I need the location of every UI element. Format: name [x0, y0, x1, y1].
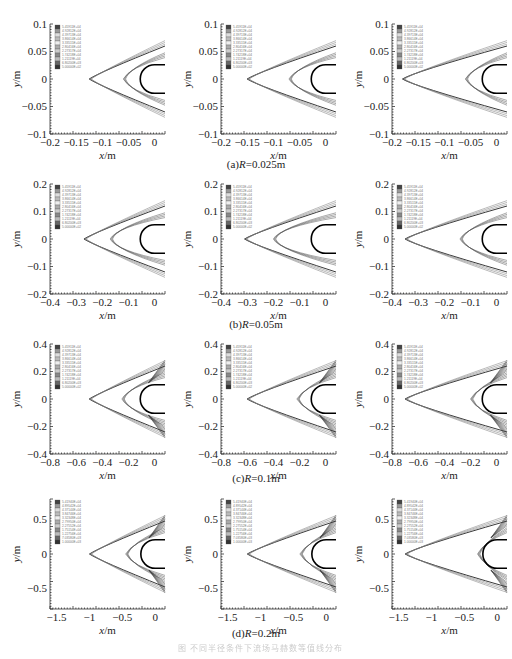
y-tick-label: 0.2: [375, 365, 389, 377]
y-axis-label: y/m: [352, 230, 364, 248]
x-tick-label: 0: [494, 136, 500, 148]
y-tick-label: 0.1: [33, 18, 47, 30]
y-tick-label: −0.05: [364, 100, 390, 112]
blunt-body: [140, 65, 165, 94]
y-tick-label: 0.2: [204, 178, 218, 190]
x-tick-label: −0.15: [405, 136, 431, 148]
svg-text:5.00000E+02: 5.00000E+02: [62, 225, 81, 229]
y-tick-label: 0.05: [370, 45, 390, 57]
blunt-body: [482, 385, 507, 414]
x-tick-label: −1.5: [47, 611, 67, 623]
contour-legend: 5.45911E+044.92812E+044.39713E+043.86614…: [55, 345, 81, 389]
x-tick-label: −0.3: [237, 296, 257, 308]
y-tick-label: −0.05: [22, 100, 48, 112]
x-tick-label: −0.6: [408, 456, 428, 468]
svg-text:1.00000E+03: 1.00000E+03: [404, 540, 423, 544]
y-tick-label: −0.2: [369, 420, 389, 432]
y-axis-label: y/m: [10, 390, 22, 408]
y-tick-label: 0: [384, 393, 390, 405]
y-tick-label: −0.05: [193, 100, 219, 112]
y-axis-label: y/m: [10, 70, 22, 88]
x-tick-label: −1: [426, 611, 438, 623]
x-tick-label: −0.6: [66, 456, 86, 468]
x-tick-label: −0.4: [211, 296, 231, 308]
figure-caption: 图 不同半径条件下流场马赫数等值线分布: [120, 642, 400, 652]
x-tick-label: 0: [494, 611, 500, 623]
x-tick-label: −1: [255, 611, 267, 623]
contour-legend: 5.45911E+044.92812E+044.39713E+043.86614…: [397, 185, 423, 229]
blunt-body: [140, 225, 165, 254]
x-tick-label: −1: [84, 611, 96, 623]
caption-row-d: (d)R=0.2m: [171, 627, 341, 639]
contour-plot-b1: 0.20.10−0.1−0.2−0.4−0.3−0.2−0.10x/my/m5.…: [0, 178, 170, 328]
blunt-body: [312, 540, 336, 569]
contour-plot-a1: 0.10.050−0.05−0.1−0.2−0.15−0.1−0.050x/my…: [0, 18, 170, 168]
y-axis-label: y/m: [181, 390, 193, 408]
contour-legend: 5.45911E+044.92812E+044.39713E+043.86614…: [226, 25, 252, 69]
x-tick-label: −0.4: [434, 456, 454, 468]
x-tick-label: 0: [323, 296, 329, 308]
y-tick-label: 0.05: [199, 45, 219, 57]
y-tick-label: 0.1: [204, 205, 218, 217]
x-axis-label: x/m: [440, 309, 458, 321]
x-tick-label: −0.8: [40, 456, 60, 468]
blunt-body: [311, 225, 336, 254]
y-tick-label: 0.1: [375, 205, 389, 217]
x-tick-label: −0.8: [211, 456, 231, 468]
x-axis-label: x/m: [440, 624, 458, 636]
y-tick-label: −0.5: [369, 582, 389, 594]
y-axis-label: y/m: [181, 230, 193, 248]
x-tick-label: −0.2: [118, 456, 138, 468]
x-tick-label: −0.5: [454, 611, 474, 623]
blunt-body: [311, 385, 336, 414]
x-tick-label: −0.2: [263, 296, 283, 308]
contour-legend: 5.41940E+044.89542E+044.37144E+043.84746…: [55, 500, 81, 544]
x-tick-label: −1.5: [218, 611, 238, 623]
x-tick-label: −0.05: [287, 136, 313, 148]
svg-text:5.00000E+02: 5.00000E+02: [62, 385, 81, 389]
y-tick-label: −0.5: [198, 582, 218, 594]
y-axis-label: y/m: [352, 545, 364, 563]
y-tick-label: 0.5: [33, 513, 47, 525]
x-tick-label: −0.4: [92, 456, 112, 468]
y-tick-label: 0.1: [375, 18, 389, 30]
y-tick-label: 0: [42, 73, 48, 85]
y-tick-label: 0: [384, 233, 390, 245]
contour-lines: [84, 201, 165, 278]
y-axis-label: y/m: [10, 230, 22, 248]
x-tick-label: −0.1: [92, 136, 112, 148]
contour-plot-a3: 0.10.050−0.05−0.1−0.2−0.15−0.1−0.050x/my…: [342, 18, 512, 168]
contour-plot-c3: 0.40.20−0.2−0.4−0.8−0.6−0.4−0.20x/my/m5.…: [342, 338, 512, 488]
y-tick-label: 0: [213, 548, 219, 560]
x-tick-label: −0.05: [458, 136, 484, 148]
x-tick-label: −0.4: [40, 296, 60, 308]
contour-legend: 5.45911E+044.92812E+044.39713E+043.86614…: [397, 345, 423, 389]
x-tick-label: −0.2: [40, 136, 60, 148]
x-tick-label: 0: [152, 296, 158, 308]
y-tick-label: −0.1: [369, 260, 389, 272]
x-axis-label: x/m: [98, 624, 116, 636]
y-tick-label: 0.05: [28, 45, 48, 57]
x-tick-label: −0.1: [434, 136, 454, 148]
svg-text:5.00000E+02: 5.00000E+02: [404, 385, 423, 389]
y-tick-label: 0.5: [204, 513, 218, 525]
y-tick-label: 0.4: [204, 338, 218, 350]
contour-plot-c1: 0.40.20−0.2−0.4−0.8−0.6−0.4−0.20x/my/m5.…: [0, 338, 170, 488]
y-tick-label: 0: [213, 73, 219, 85]
y-tick-label: −0.2: [27, 420, 47, 432]
x-tick-label: −0.6: [237, 456, 257, 468]
x-axis-label: x/m: [98, 309, 116, 321]
x-tick-label: −0.1: [289, 296, 309, 308]
contour-legend: 5.41940E+044.89542E+044.37144E+043.84746…: [397, 500, 423, 544]
x-axis-label: x/m: [98, 149, 116, 161]
x-tick-label: −0.05: [116, 136, 142, 148]
contour-lines: [247, 41, 336, 118]
x-tick-label: −0.2: [289, 456, 309, 468]
contour-plot-b2: 0.20.10−0.1−0.2−0.4−0.3−0.2−0.10x/my/m5.…: [171, 178, 341, 328]
blunt-body: [483, 540, 507, 569]
blunt-body: [482, 65, 507, 94]
contour-plot-c2: 0.40.20−0.2−0.4−0.8−0.6−0.4−0.20x/my/m5.…: [171, 338, 341, 488]
svg-text:1.00000E+03: 1.00000E+03: [62, 540, 81, 544]
svg-text:5.00000E+02: 5.00000E+02: [62, 65, 81, 69]
contour-plot-a2: 0.10.050−0.05−0.1−0.2−0.15−0.1−0.050x/my…: [171, 18, 341, 168]
